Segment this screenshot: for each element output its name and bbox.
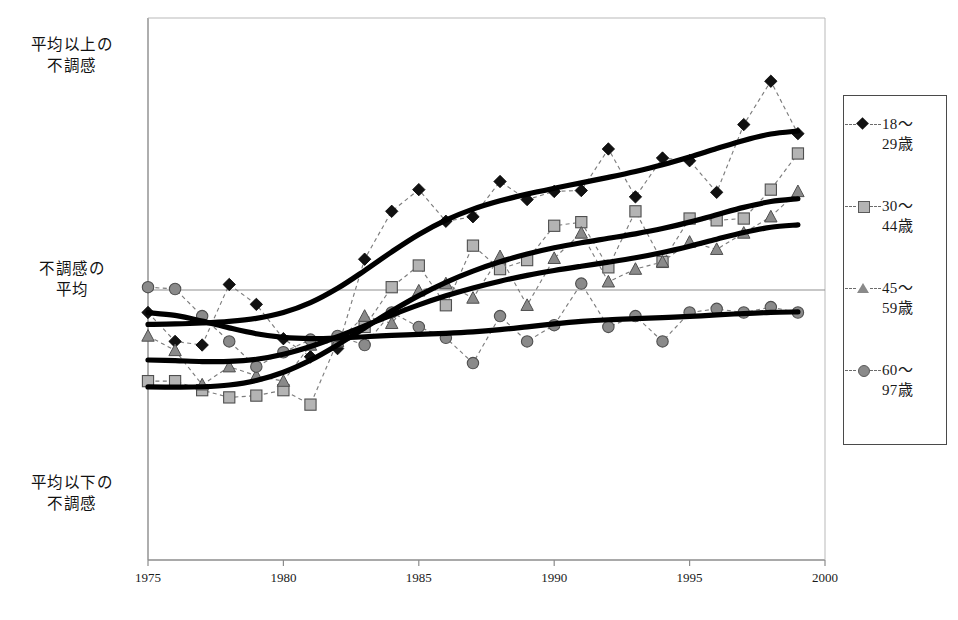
x-axis-tick-1990: 1990 (526, 570, 582, 586)
data-point-square (738, 213, 749, 224)
data-point-diamond (358, 253, 370, 265)
data-point-diamond (250, 298, 262, 310)
legend-label-45～59歳: 45～59歳 (882, 278, 913, 318)
data-point-triangle (548, 252, 560, 264)
x-axis-tick-1980: 1980 (255, 570, 311, 586)
legend-label-30～44歳: 30～44歳 (882, 196, 913, 236)
legend-item-18～29歳[interactable]: 18～29歳 (844, 114, 948, 154)
legend-dash-right (870, 206, 881, 207)
data-point-triangle (169, 344, 181, 356)
legend-marker-circle-icon (844, 362, 882, 380)
data-point-diamond (710, 186, 722, 198)
data-point-square (630, 206, 641, 217)
data-point-triangle (358, 310, 370, 322)
diamond-icon (856, 117, 869, 130)
data-point-triangle (710, 243, 722, 255)
data-point-square (251, 390, 262, 401)
legend-label-line1: 60～ (882, 360, 913, 380)
data-point-square (792, 148, 803, 159)
legend-marker-diamond-icon (844, 116, 882, 134)
data-point-square (305, 399, 316, 410)
legend: 18～29歳30～44歳45～59歳60～97歳 (843, 95, 947, 445)
data-point-triangle (602, 275, 614, 287)
legend-dash-left (845, 370, 856, 371)
legend-label-line2: 97歳 (882, 380, 913, 400)
x-axis-ticks (148, 560, 825, 566)
legend-label-line2: 59歳 (882, 298, 913, 318)
legend-dash-right (870, 124, 881, 125)
data-point-square (224, 392, 235, 403)
legend-dash-right (870, 288, 881, 289)
legend-label-line1: 45～ (882, 278, 913, 298)
data-point-circle (251, 361, 262, 372)
data-point-triangle (467, 292, 479, 304)
trend-layer (148, 131, 798, 387)
data-point-diamond (765, 75, 777, 87)
legend-label-line1: 30～ (882, 196, 913, 216)
legend-label-line1: 18～ (882, 114, 913, 134)
x-axis-tick-1975: 1975 (120, 570, 176, 586)
data-point-circle (521, 336, 532, 347)
legend-item-45～59歳[interactable]: 45～59歳 (844, 278, 948, 318)
square-icon (858, 201, 870, 213)
legend-item-30～44歳[interactable]: 30～44歳 (844, 196, 948, 236)
data-point-circle (169, 283, 180, 294)
data-point-square (549, 220, 560, 231)
data-point-diamond (738, 118, 750, 130)
legend-item-60～97歳[interactable]: 60～97歳 (844, 360, 948, 400)
data-point-circle (657, 336, 668, 347)
legend-label-line2: 44歳 (882, 216, 913, 236)
data-point-circle (359, 339, 370, 350)
data-point-circle (224, 336, 235, 347)
data-point-circle (494, 310, 505, 321)
data-point-diamond (196, 339, 208, 351)
legend-dash-left (845, 124, 856, 125)
data-point-triangle (521, 299, 533, 311)
data-point-triangle (142, 330, 154, 342)
data-point-diamond (629, 191, 641, 203)
plot-canvas (0, 0, 958, 620)
legend-dash-left (845, 288, 856, 289)
data-point-square (765, 184, 776, 195)
data-point-circle (603, 321, 614, 332)
legend-label-line2: 29歳 (882, 134, 913, 154)
x-axis-tick-1995: 1995 (662, 570, 718, 586)
data-point-triangle (765, 210, 777, 222)
data-point-diamond (494, 175, 506, 187)
data-point-square (440, 300, 451, 311)
x-axis-tick-2000: 2000 (797, 570, 853, 586)
legend-marker-triangle-icon (844, 280, 882, 298)
legend-dash-right (870, 370, 881, 371)
plot-frame (148, 18, 825, 560)
legend-label-60～97歳: 60～97歳 (882, 360, 913, 400)
chart-figure: 平均以上の 不調感 不調感の 平均 平均以下の 不調感 197519801985… (0, 0, 958, 620)
legend-marker-square-icon (844, 198, 882, 216)
data-point-square (386, 282, 397, 293)
data-point-diamond (602, 143, 614, 155)
data-point-triangle (792, 185, 804, 197)
trend-curve-60～97歳 (148, 312, 798, 339)
data-point-circle (467, 357, 478, 368)
data-point-circle (576, 278, 587, 289)
data-point-square (413, 260, 424, 271)
data-point-circle (142, 281, 153, 292)
legend-label-18～29歳: 18～29歳 (882, 114, 913, 154)
data-point-diamond (223, 278, 235, 290)
data-point-square (467, 240, 478, 251)
triangle-icon (857, 283, 869, 293)
data-point-diamond (386, 205, 398, 217)
legend-dash-left (845, 206, 856, 207)
data-point-circle (413, 321, 424, 332)
circle-icon (858, 365, 870, 377)
x-axis-tick-1985: 1985 (391, 570, 447, 586)
